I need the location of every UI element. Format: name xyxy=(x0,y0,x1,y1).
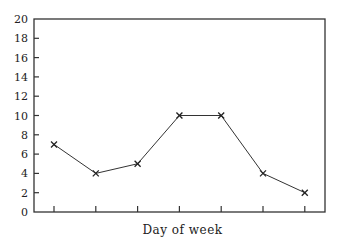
y-tick-label: 16 xyxy=(14,52,28,65)
y-tick-label: 18 xyxy=(14,32,28,45)
data-point-marker xyxy=(260,170,266,176)
data-point-marker xyxy=(51,141,57,147)
y-tick-label: 2 xyxy=(21,187,28,200)
line-chart: 02468101214161820 Day of week xyxy=(0,0,340,249)
y-tick-label: 10 xyxy=(14,110,28,123)
series-line xyxy=(54,116,305,193)
y-tick-label: 12 xyxy=(14,90,28,103)
data-point-marker xyxy=(302,190,308,196)
y-tick-label: 0 xyxy=(21,206,28,219)
series-group xyxy=(51,113,308,196)
y-tick-label: 20 xyxy=(14,13,28,26)
y-tick-label: 8 xyxy=(21,129,28,142)
x-axis xyxy=(54,206,305,212)
y-tick-label: 4 xyxy=(21,167,28,180)
y-tick-label: 6 xyxy=(21,148,28,161)
y-tick-label: 14 xyxy=(14,71,28,84)
y-axis: 02468101214161820 xyxy=(14,13,39,219)
x-axis-label: Day of week xyxy=(142,223,222,237)
